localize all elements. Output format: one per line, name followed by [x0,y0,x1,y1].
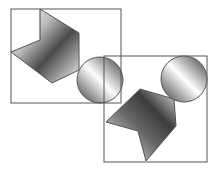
sphere-shape [77,57,123,103]
bent-plane-shape [106,89,176,161]
bent-plane-shape [11,9,79,83]
sphere-shape [161,56,207,102]
diagram-canvas [0,0,220,175]
